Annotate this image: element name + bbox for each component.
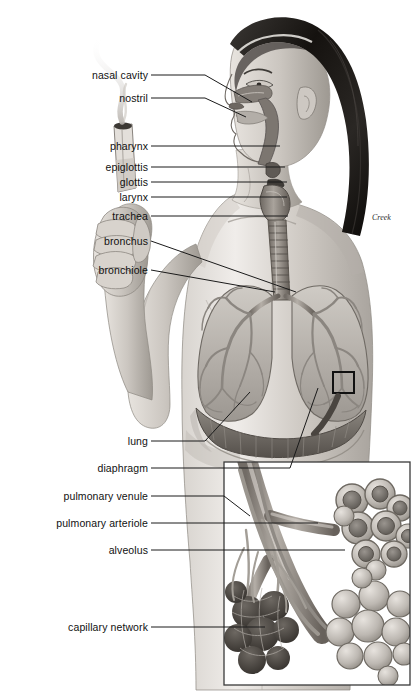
label-glottis: glottis xyxy=(97,177,148,188)
label-capillary-network: capillary network xyxy=(50,622,148,633)
label-diaphragm: diaphragm xyxy=(78,463,148,474)
epiglottis-structure xyxy=(266,162,280,177)
label-epiglottis: epiglottis xyxy=(81,162,148,173)
fingers xyxy=(93,220,138,289)
label-larynx: larynx xyxy=(98,192,148,203)
label-pharynx: pharynx xyxy=(88,141,148,152)
anatomical-illustration xyxy=(0,0,420,700)
label-alveolus: alveolus xyxy=(90,545,148,556)
larynx-structure xyxy=(260,185,290,222)
label-nostril: nostril xyxy=(98,93,148,104)
respiratory-system-figure: nasal cavitynostrilpharynxepiglottisglot… xyxy=(0,0,420,700)
label-nasal-cavity: nasal cavity xyxy=(68,70,148,81)
label-lung: lung xyxy=(110,436,148,447)
label-trachea: trachea xyxy=(91,211,148,222)
alveoli-detail-inset xyxy=(224,456,420,686)
label-bronchus: bronchus xyxy=(84,236,148,247)
label-pulmonary-venule: pulmonary venule xyxy=(50,491,148,502)
label-bronchiole: bronchiole xyxy=(78,265,148,276)
artist-signature: Creek xyxy=(372,213,391,222)
label-pulmonary-arteriole: pulmonary arteriole xyxy=(38,518,148,529)
